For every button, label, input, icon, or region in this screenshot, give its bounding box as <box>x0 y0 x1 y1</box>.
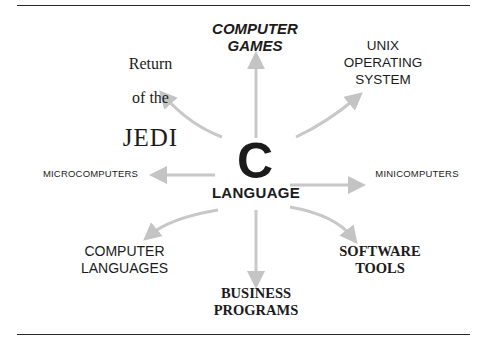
jedi-line3: JEDI <box>108 124 193 151</box>
arrow-to-unix <box>296 98 356 137</box>
arrow-to-languages <box>150 210 218 235</box>
jedi-line2: of the <box>108 90 193 106</box>
arrow-to-tools <box>290 207 352 237</box>
node-business-programs: BUSINESS PROGRAMS <box>200 285 312 319</box>
center-c-letter: C <box>230 136 280 186</box>
node-software-tools: SOFTWARE TOOLS <box>325 243 435 277</box>
node-microcomputers: MICROCOMPUTERS <box>28 168 153 179</box>
node-return-of-the-jedi: Return of the JEDI <box>108 38 193 169</box>
node-unix-operating-system: UNIX OPERATING SYSTEM <box>328 37 438 88</box>
center-language-label: LANGUAGE <box>200 184 312 201</box>
node-computer-languages: COMPUTER LANGUAGES <box>72 243 177 277</box>
node-minicomputers: MINICOMPUTERS <box>362 168 472 179</box>
node-computer-games: COMPUTER GAMES <box>200 20 310 54</box>
jedi-line1: Return <box>108 56 193 72</box>
